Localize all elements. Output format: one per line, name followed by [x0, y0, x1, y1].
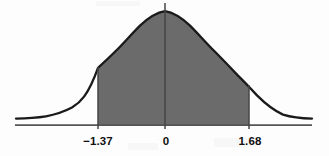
- normal-distribution-figure: −1.37 0 1.68: [0, 0, 329, 156]
- tick-label-right: 1.68: [239, 136, 262, 148]
- normal-curve-plot: [0, 0, 329, 156]
- tick-label-left: −1.37: [83, 136, 113, 148]
- tick-label-center: 0: [163, 136, 170, 148]
- shaded-area-under-curve: [98, 11, 249, 125]
